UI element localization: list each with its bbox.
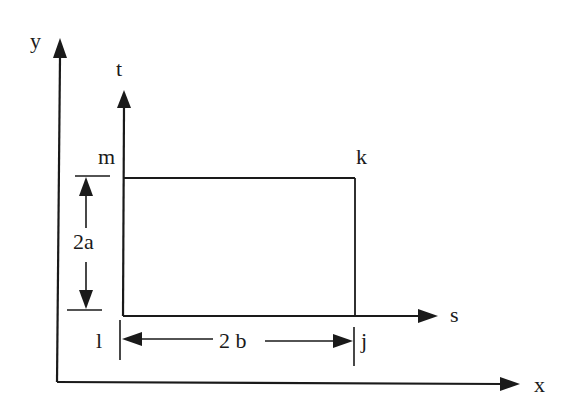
node-label-j: j [360, 328, 367, 353]
node-labels: m k l j [96, 144, 367, 353]
width-dimension: 2 b [120, 320, 354, 366]
x-axis-label: x [534, 372, 545, 397]
height-dimension: 2a [67, 176, 110, 310]
global-y-axis [57, 58, 60, 382]
t-axis-arrowhead-icon [117, 90, 131, 108]
node-label-m: m [98, 144, 115, 169]
height-dimension-label: 2a [73, 229, 94, 254]
x-axis-arrowhead-icon [500, 377, 520, 391]
global-x-axis [57, 382, 502, 384]
height-up-arrowhead-icon [79, 177, 93, 196]
node-label-k: k [356, 144, 367, 169]
height-down-arrowhead-icon [79, 290, 93, 309]
y-axis-label: y [30, 28, 41, 53]
rectangular-element [124, 178, 355, 316]
width-right-arrowhead-icon [333, 334, 353, 348]
y-axis-arrowhead-icon [53, 38, 67, 58]
width-dimension-label: 2 b [219, 328, 247, 353]
element-diagram: y x t s m k l j [0, 0, 574, 414]
s-axis-arrowhead-icon [418, 309, 438, 323]
node-label-l: l [96, 328, 102, 353]
local-t-axis [123, 108, 124, 316]
local-axes: t s [116, 56, 459, 327]
t-axis-label: t [116, 56, 122, 81]
s-axis-label: s [450, 302, 459, 327]
width-left-arrowhead-icon [122, 332, 142, 346]
